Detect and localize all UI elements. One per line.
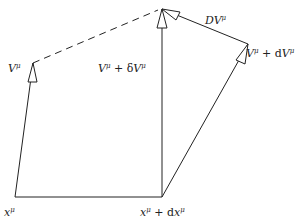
- label-vector: Vμ: [8, 62, 21, 75]
- label-displaced-vector: Vμ + dVμ: [246, 47, 295, 60]
- parallel-transport-diagram: xμ xμ + dxμ Vμ Vμ + δVμ Vμ + dVμ DVμ: [0, 0, 305, 222]
- dashed-connector: [33, 10, 158, 63]
- label-displaced-point: xμ + dxμ: [140, 206, 185, 219]
- label-parallel-transported: Vμ + δVμ: [98, 62, 146, 75]
- label-covariant-difference: DVμ: [204, 14, 227, 27]
- vector-v: [15, 63, 33, 197]
- vector-v-arrowhead: [28, 63, 37, 82]
- label-base-point: xμ: [4, 206, 15, 219]
- vector-v-plus-dv: [162, 44, 248, 197]
